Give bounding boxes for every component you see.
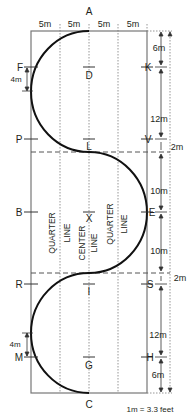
center-line-label: CENTER LINE [77,226,99,261]
dim-10m-lower: 10m [150,246,168,256]
letter-L: L [86,141,92,152]
dim-6m-top: 6m [153,43,166,53]
letter-C: C [85,399,92,410]
letter-G: G [85,360,93,371]
letter-E: E [149,207,156,218]
letter-ticks [24,67,153,357]
center-word2: LINE [89,233,99,252]
dim-12m-top: 12m [150,114,168,124]
quarter-line-left-label: QUARTER LINE [47,212,72,253]
letter-V: V [145,134,152,145]
dim-2m-bottom: 2m [174,273,187,283]
dim-10m-upper: 10m [150,186,168,196]
width-label-3: 5m [98,19,111,29]
center-word1: CENTER [77,226,87,261]
quarter-left-word2: LINE [62,223,72,242]
letter-D: D [85,70,92,81]
quarter-left-word1: QUARTER [47,212,57,253]
letter-M: M [15,352,23,363]
width-label-1: 5m [39,19,52,29]
dim-4m-lower: 4m [9,340,20,349]
letter-K: K [145,62,152,73]
quarter-right-word2: LINE [119,214,129,233]
quarter-right-word1: QUARTER [105,203,115,244]
letter-X: X [86,213,93,224]
scale-note: 1m = 3.3 feet [127,405,175,414]
letter-P: P [16,134,23,145]
letter-F: F [17,62,23,73]
letter-B: B [16,207,23,218]
letter-S: S [147,279,154,290]
dim-2m-top: 2m [171,142,184,152]
letter-A: A [86,6,93,17]
dressage-arena-diagram: A C F P B R M K V E S H D L X I G 5m 5m … [0,0,191,417]
dim-12m-bottom: 12m [149,330,167,340]
quarter-line-right-label: QUARTER LINE [105,203,129,244]
width-label-4: 5m [127,19,140,29]
letter-H: H [146,352,153,363]
width-label-2: 5m [68,19,81,29]
letter-R: R [15,279,22,290]
dim-4m-upper: 4m [10,75,21,84]
dim-6m-bottom: 6m [152,370,165,380]
letter-I: I [88,286,91,297]
